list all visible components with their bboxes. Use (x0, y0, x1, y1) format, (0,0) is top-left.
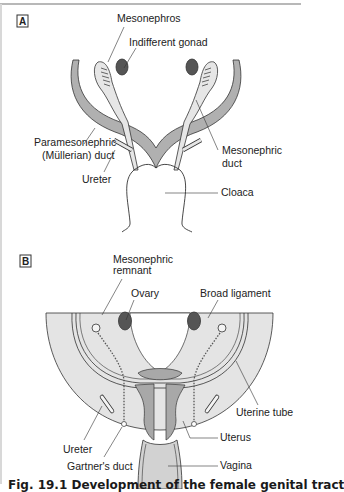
label-vagina: Vagina (220, 459, 252, 471)
label-indifferent-gonad: Indifferent gonad (129, 36, 208, 48)
label-ureter-a: Ureter (82, 173, 112, 185)
label-paramesonephric-1: Paramesonephric (34, 136, 116, 148)
ovary-left (119, 312, 132, 330)
label-uterus: Uterus (220, 431, 251, 443)
panel-a: A Mesonephros Indifferent gonad Parameso… (17, 12, 282, 232)
mesonephric-remnant-left (92, 324, 100, 332)
label-gartners-duct: Gartner's duct (67, 460, 133, 472)
cloaca-right-wall (180, 170, 192, 232)
panel-b-label: B (22, 256, 29, 267)
label-mesonephric-duct-2: duct (222, 157, 242, 169)
label-ovary: Ovary (131, 287, 160, 299)
mesonephric-remnant-right (218, 324, 226, 332)
cloaca-left-wall (122, 170, 134, 232)
ovary-right (188, 312, 201, 330)
label-broad-ligament: Broad ligament (200, 287, 271, 299)
label-mesonephric-remnant-2: remnant (113, 264, 152, 276)
gonad-right (186, 59, 198, 75)
label-paramesonephric-2: (Müllerian) duct (42, 149, 114, 161)
label-cloaca: Cloaca (221, 186, 254, 198)
panel-b: B (20, 253, 293, 489)
figure-caption: Fig. 19.1 Development of the female geni… (8, 478, 344, 492)
label-mesonephric-duct-1: Mesonephric (222, 144, 282, 156)
label-mesonephros: Mesonephros (117, 12, 181, 24)
gonad-left (116, 59, 128, 75)
label-uterine-tube: Uterine tube (236, 406, 293, 418)
panel-a-label: A (19, 16, 26, 27)
label-ureter-b: Ureter (63, 443, 93, 455)
